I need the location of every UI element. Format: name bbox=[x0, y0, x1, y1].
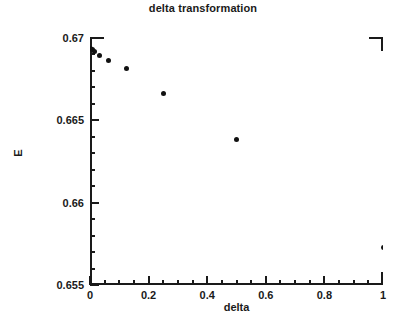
y-axis-title: E bbox=[12, 149, 24, 156]
data-point bbox=[161, 91, 166, 96]
data-point bbox=[381, 245, 384, 250]
data-point bbox=[97, 53, 102, 58]
y-tick-label: 0.66 bbox=[28, 197, 84, 209]
x-tick-label: 0.6 bbox=[258, 289, 273, 301]
scatter-data-layer bbox=[90, 38, 383, 285]
y-axis-tick-labels: 0.6550.660.6650.67 bbox=[26, 0, 84, 320]
x-axis-title: delta bbox=[90, 301, 383, 313]
data-point bbox=[124, 66, 129, 71]
data-point bbox=[234, 137, 239, 142]
data-point bbox=[106, 58, 111, 63]
x-tick-label: 0.2 bbox=[141, 289, 156, 301]
data-point bbox=[92, 49, 97, 54]
y-tick-label: 0.665 bbox=[28, 114, 84, 126]
y-tick-label: 0.655 bbox=[28, 279, 84, 291]
y-tick-label: 0.67 bbox=[28, 32, 84, 44]
x-tick-label: 0 bbox=[87, 289, 93, 301]
x-tick-label: 0.4 bbox=[200, 289, 215, 301]
x-tick-label: 0.8 bbox=[317, 289, 332, 301]
x-tick-label: 1 bbox=[380, 289, 386, 301]
chart-canvas: delta transformation 0.6550.660.6650.67 … bbox=[0, 0, 406, 320]
